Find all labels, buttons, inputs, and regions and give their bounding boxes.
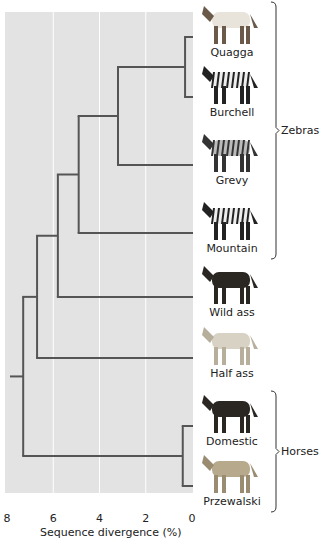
taxon-label: Quagga [194,46,270,59]
taxon-burchell: Burchell [194,62,270,119]
animal-illustration-icon [194,262,270,306]
animal-illustration-icon [194,62,270,106]
x-tick-label: 6 [50,512,57,525]
animal-illustration-icon [194,2,270,46]
animal-illustration-icon [194,130,270,174]
taxon-label: Mountain [194,242,270,255]
x-tick-label: 0 [189,512,196,525]
x-tick-label: 2 [142,512,149,525]
taxon-label: Wild ass [194,306,270,319]
taxon-mountain: Mountain [194,198,270,255]
taxon-label: Burchell [194,106,270,119]
animal-illustration-icon [194,391,270,435]
taxon-wild-ass: Wild ass [194,262,270,319]
group-bracket [271,2,279,259]
taxon-label: Grevy [194,174,270,187]
group-label-zebras: Zebras [281,124,319,137]
taxon-domestic: Domestic [194,391,270,448]
x-tick-label: 8 [4,512,11,525]
x-axis-label: Sequence divergence (%) [40,526,181,539]
taxon-label: Domestic [194,435,270,448]
group-bracket [271,391,279,512]
x-tick-label: 4 [96,512,103,525]
phylogenetic-tree [0,0,321,541]
taxon-quagga: Quagga [194,2,270,59]
animal-illustration-icon [194,323,270,367]
taxon-przewalski: Przewalski [194,451,270,508]
animal-illustration-icon [194,451,270,495]
taxon-label: Przewalski [194,495,270,508]
animal-illustration-icon [194,198,270,242]
taxon-grevy: Grevy [194,130,270,187]
taxon-half-ass: Half ass [194,323,270,380]
taxon-label: Half ass [194,367,270,380]
group-label-horses: Horses [281,445,319,458]
